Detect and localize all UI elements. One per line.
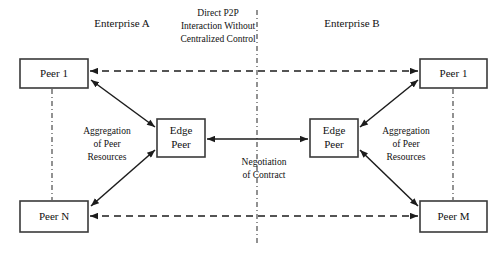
annotation-negotiation-line2: of Contract (242, 170, 285, 180)
annotation-aggregation-right: Aggregation of Peer Resources (382, 126, 430, 162)
annotation-aggregation-right-line1: Aggregation (382, 126, 430, 136)
annotation-direct-p2p-line2: Interaction Without (181, 21, 255, 31)
node-right-peer-top[interactable]: Peer 1 (420, 59, 487, 88)
annotation-aggregation-right-line2: of Peer (392, 139, 420, 149)
annotation-aggregation-left-line1: Aggregation (83, 126, 131, 136)
node-left-peer-bottom[interactable]: Peer N (20, 201, 88, 232)
aggregation-link-left-top (91, 80, 155, 127)
annotation-direct-p2p-line3: Centralized Control (180, 34, 256, 44)
annotation-aggregation-left-line3: Resources (87, 152, 126, 162)
node-left-peer-top[interactable]: Peer 1 (20, 59, 88, 88)
annotation-direct-p2p: Direct P2P Interaction Without Centraliz… (180, 8, 256, 44)
zone-title-enterprise-b: Enterprise B (324, 17, 379, 29)
annotation-aggregation-left: Aggregation of Peer Resources (83, 126, 131, 162)
node-left-peer-bottom-label: Peer N (39, 210, 69, 222)
node-right-peer-bottom[interactable]: Peer M (420, 201, 487, 232)
aggregation-link-right-top (360, 80, 418, 127)
node-right-edge-peer-label-line1: Edge (323, 124, 346, 136)
annotation-negotiation: Negotiation of Contract (242, 157, 287, 180)
node-right-peer-top-label: Peer 1 (440, 67, 468, 79)
diagram-canvas: Peer 1 Peer N Edge Peer Edge Peer Peer 1… (0, 0, 504, 264)
node-left-edge-peer-label-line2: Peer (171, 138, 191, 150)
node-left-edge-peer[interactable]: Edge Peer (157, 119, 205, 157)
zone-title-enterprise-a: Enterprise A (94, 17, 149, 29)
node-left-edge-peer-label-line1: Edge (170, 124, 193, 136)
node-right-peer-bottom-label: Peer M (437, 210, 469, 222)
annotation-direct-p2p-line1: Direct P2P (197, 8, 238, 18)
annotation-aggregation-left-line2: of Peer (93, 139, 121, 149)
node-right-edge-peer[interactable]: Edge Peer (310, 119, 358, 157)
node-right-edge-peer-label-line2: Peer (324, 138, 344, 150)
annotation-aggregation-right-line3: Resources (386, 152, 425, 162)
annotation-negotiation-line1: Negotiation (242, 157, 287, 167)
node-left-peer-top-label: Peer 1 (40, 67, 68, 79)
p2p-enterprise-architecture-diagram: Peer 1 Peer N Edge Peer Edge Peer Peer 1… (0, 0, 504, 264)
